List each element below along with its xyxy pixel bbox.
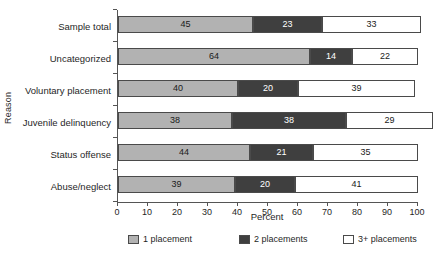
bar-value-label: 29 xyxy=(384,116,394,125)
bar-value-label: 44 xyxy=(179,148,189,157)
bar-value-label: 41 xyxy=(351,180,361,189)
bar-segment: 14 xyxy=(310,48,352,65)
legend-label: 1 placement xyxy=(143,234,192,244)
y-tick xyxy=(113,73,117,74)
category-label: Abuse/neglect xyxy=(51,178,111,195)
bar-value-label: 20 xyxy=(260,180,270,189)
category-label: Uncategorized xyxy=(50,50,111,67)
x-axis-title: Percent xyxy=(117,211,417,222)
category-label: Voluntary placement xyxy=(25,82,111,99)
bar-value-label: 40 xyxy=(173,84,183,93)
bar-value-label: 38 xyxy=(284,116,294,125)
x-tick xyxy=(237,202,238,206)
x-tick xyxy=(147,202,148,206)
bar-segment: 29 xyxy=(346,112,433,129)
bar-value-label: 14 xyxy=(326,52,336,61)
y-tick xyxy=(113,105,117,106)
bar-value-label: 23 xyxy=(282,20,292,29)
y-axis-line xyxy=(117,10,118,202)
y-tick xyxy=(113,9,117,10)
category-label: Juvenile delinquency xyxy=(23,114,111,131)
bar-value-label: 20 xyxy=(263,84,273,93)
bar-segment: 21 xyxy=(250,144,313,161)
bar-value-label: 35 xyxy=(360,148,370,157)
x-tick xyxy=(417,202,418,206)
y-axis-title: Reason xyxy=(0,78,16,138)
bar-segment: 22 xyxy=(352,48,418,65)
bar-segment: 38 xyxy=(118,112,232,129)
bar-segment: 40 xyxy=(118,80,238,97)
x-tick xyxy=(267,202,268,206)
category-label: Sample total xyxy=(58,18,111,35)
bar-value-label: 64 xyxy=(209,52,219,61)
x-tick xyxy=(177,202,178,206)
bar-value-label: 38 xyxy=(170,116,180,125)
chart-legend: 1 placement2 placements3+ placements xyxy=(117,232,417,252)
legend-item[interactable]: 1 placement xyxy=(128,232,192,246)
x-tick xyxy=(357,202,358,206)
y-tick xyxy=(113,169,117,170)
bar-segment: 39 xyxy=(298,80,415,97)
x-tick xyxy=(297,202,298,206)
bar-segment: 20 xyxy=(235,176,295,193)
legend-swatch-icon xyxy=(343,235,354,244)
bar-value-label: 22 xyxy=(380,52,390,61)
legend-swatch-icon xyxy=(128,235,139,244)
x-tick xyxy=(117,202,118,206)
bar-segment: 44 xyxy=(118,144,250,161)
plot-area: 0102030405060708090100 45233364142240203… xyxy=(117,10,417,202)
y-tick xyxy=(113,137,117,138)
bar-segment: 35 xyxy=(313,144,418,161)
legend-label: 3+ placements xyxy=(358,234,417,244)
bar-segment: 20 xyxy=(238,80,298,97)
x-tick xyxy=(207,202,208,206)
bar-value-label: 33 xyxy=(366,20,376,29)
bar-value-label: 39 xyxy=(351,84,361,93)
category-label: Status offense xyxy=(50,146,111,163)
x-tick xyxy=(387,202,388,206)
bar-value-label: 21 xyxy=(276,148,286,157)
bar-segment: 45 xyxy=(118,16,253,33)
bar-segment: 38 xyxy=(232,112,346,129)
bar-segment: 33 xyxy=(322,16,421,33)
category-label-list: Sample totalUncategorizedVoluntary place… xyxy=(16,12,114,202)
y-tick xyxy=(113,41,117,42)
legend-item[interactable]: 2 placements xyxy=(239,232,308,246)
legend-label: 2 placements xyxy=(254,234,308,244)
bar-segment: 41 xyxy=(295,176,418,193)
bar-value-label: 45 xyxy=(180,20,190,29)
legend-swatch-icon xyxy=(239,235,250,244)
bar-segment: 39 xyxy=(118,176,235,193)
x-tick xyxy=(327,202,328,206)
bar-segment: 23 xyxy=(253,16,322,33)
legend-item[interactable]: 3+ placements xyxy=(343,232,417,246)
bar-value-label: 39 xyxy=(171,180,181,189)
bar-segment: 64 xyxy=(118,48,310,65)
